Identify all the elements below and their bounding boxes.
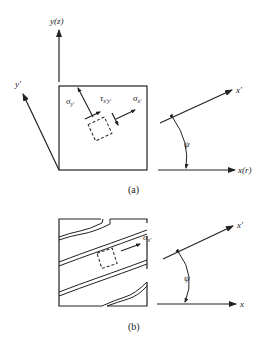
y-z-axis-label: y(z) bbox=[49, 16, 64, 26]
shear-arrow-top bbox=[85, 112, 100, 119]
x-r-axis-label: x(r) bbox=[237, 165, 252, 175]
x-prime-axis-b-label: x' bbox=[236, 220, 244, 230]
sigma-x-arrow bbox=[116, 110, 135, 119]
y-prime-axis bbox=[23, 94, 59, 170]
figure-b: σx' x' x ψ (b) bbox=[59, 219, 244, 333]
caption-b: (b) bbox=[128, 321, 140, 333]
sigma-y-label: σy' bbox=[66, 96, 75, 107]
sigma-x-label: σx' bbox=[133, 93, 142, 104]
sigma-y-arrow bbox=[78, 88, 93, 117]
fiber-bands bbox=[59, 219, 147, 306]
stress-transformation-diagram: y(z) y' σy' τx'y' σx' x' x(r) ψ (a) bbox=[0, 0, 268, 343]
tau-xy-label: τx'y' bbox=[100, 93, 112, 104]
psi-label-a: ψ bbox=[184, 139, 190, 149]
y-prime-axis-label: y' bbox=[14, 79, 22, 89]
stress-element-a bbox=[88, 117, 112, 141]
x-prime-axis-b bbox=[163, 226, 233, 259]
figure-a: y(z) y' σy' τx'y' σx' x' x(r) ψ (a) bbox=[14, 16, 252, 196]
psi-label-b: ψ bbox=[184, 273, 190, 283]
sigma-x-arrow-b bbox=[121, 244, 140, 251]
sigma-x-label-b: σx' bbox=[143, 232, 152, 243]
x-axis-b-label: x bbox=[239, 299, 244, 309]
caption-a: (a) bbox=[128, 184, 139, 196]
x-prime-axis-a-label: x' bbox=[235, 85, 243, 95]
x-prime-axis-a bbox=[160, 90, 232, 123]
